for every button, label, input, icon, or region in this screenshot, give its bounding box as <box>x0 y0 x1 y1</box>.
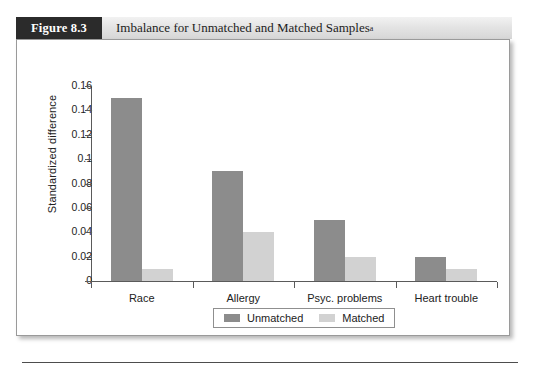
x-tick-mark <box>193 282 194 288</box>
y-tick-mark <box>85 159 92 160</box>
legend-swatch-unmatched-icon <box>224 314 240 322</box>
x-category-label-2: Psyc. problems <box>307 292 382 304</box>
figure-number-badge: Figure 8.3 <box>16 17 102 39</box>
x-tick-mark <box>294 282 295 288</box>
bar-matched-3 <box>446 269 477 281</box>
x-category-label-3: Heart trouble <box>414 292 478 304</box>
y-tick-8: 0.16 <box>17 86 92 87</box>
x-category-label-1: Allergy <box>226 292 260 304</box>
y-tick-1: 0.02 <box>17 257 92 258</box>
y-tick-7: 0.14 <box>17 110 92 111</box>
y-tick-mark <box>85 110 92 111</box>
bar-unmatched-2 <box>314 220 345 281</box>
y-tick-label: 0.08 <box>40 177 92 189</box>
y-tick-mark <box>85 135 92 136</box>
legend-item-unmatched: Unmatched <box>224 312 303 324</box>
bar-matched-2 <box>345 257 376 281</box>
legend-label-unmatched: Unmatched <box>247 312 303 324</box>
legend-label-matched: Matched <box>342 312 384 324</box>
y-tick-mark <box>85 232 92 233</box>
y-tick-label: 0.04 <box>40 225 92 237</box>
chart-legend: Unmatched Matched <box>213 308 395 328</box>
figure-title-footnote-marker: a <box>370 24 374 33</box>
bar-unmatched-3 <box>415 257 446 281</box>
figure-title: Imbalance for Unmatched and Matched Samp… <box>102 17 512 39</box>
x-category-label-0: Race <box>129 292 155 304</box>
y-tick-5: 0.1 <box>17 159 92 160</box>
y-tick-mark <box>85 86 92 87</box>
figure-card: Standardized difference 00.020.040.060.0… <box>16 39 510 336</box>
y-tick-label: 0 <box>40 274 92 286</box>
y-tick-mark <box>85 257 92 258</box>
y-tick-label: 0.02 <box>40 250 92 262</box>
figure-title-text: Imbalance for Unmatched and Matched Samp… <box>116 20 370 36</box>
y-tick-label: 0.16 <box>40 79 92 91</box>
figure-container: Figure 8.3 Imbalance for Unmatched and M… <box>0 0 542 387</box>
chart-plot-area: Standardized difference 00.020.040.060.0… <box>17 40 511 337</box>
x-tick-mark <box>497 282 498 288</box>
figure-header: Figure 8.3 Imbalance for Unmatched and M… <box>16 17 512 39</box>
bar-matched-0 <box>142 269 173 281</box>
y-tick-mark <box>85 208 92 209</box>
y-tick-6: 0.12 <box>17 135 92 136</box>
footer-rule <box>22 362 518 363</box>
bar-unmatched-1 <box>212 171 243 281</box>
bar-matched-1 <box>243 232 274 281</box>
y-tick-label: 0.1 <box>40 152 92 164</box>
x-tick-mark <box>91 282 92 288</box>
y-tick-label: 0.14 <box>40 103 92 115</box>
y-tick-mark <box>85 184 92 185</box>
y-tick-0: 0 <box>17 281 92 282</box>
x-tick-mark <box>396 282 397 288</box>
y-tick-4: 0.08 <box>17 184 92 185</box>
y-tick-label: 0.12 <box>40 128 92 140</box>
y-tick-label: 0.06 <box>40 201 92 213</box>
y-tick-2: 0.04 <box>17 232 92 233</box>
legend-swatch-matched-icon <box>319 314 335 322</box>
y-tick-3: 0.06 <box>17 208 92 209</box>
legend-item-matched: Matched <box>319 312 384 324</box>
bar-unmatched-0 <box>111 98 142 281</box>
